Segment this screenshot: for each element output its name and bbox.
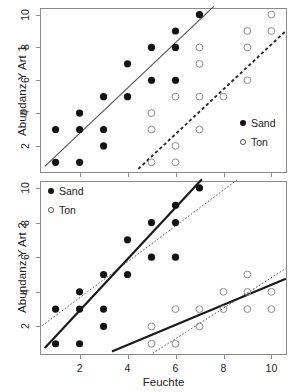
data-point-sand xyxy=(52,306,59,313)
x-axis-label: Feuchte xyxy=(124,376,204,388)
data-point-ton xyxy=(220,288,227,295)
data-point-ton xyxy=(148,323,155,330)
x-tick-mark xyxy=(176,173,177,177)
data-point-ton xyxy=(148,340,155,347)
data-point-sand xyxy=(172,219,179,226)
x-tick-label: 2 xyxy=(70,362,90,374)
x-tick-mark xyxy=(80,355,81,359)
y-tick-label: 2 xyxy=(19,137,31,155)
data-point-ton xyxy=(196,323,203,330)
x-tick-label: 10 xyxy=(261,362,281,374)
data-point-ton xyxy=(268,288,275,295)
figure-scatter-panels: Abundanz Y Art 1 Sand Ton Abundanz Y Art… xyxy=(0,0,292,392)
y-tick-label: 10 xyxy=(19,179,31,197)
x-tick-mark xyxy=(128,173,129,177)
y-tick-label: 10 xyxy=(19,6,31,24)
x-tick-mark xyxy=(128,355,129,359)
x-tick-mark xyxy=(224,355,225,359)
y-tick-mark xyxy=(36,80,40,81)
y-tick-mark xyxy=(36,257,40,258)
data-point-sand xyxy=(124,271,131,278)
data-point-sand xyxy=(76,306,83,313)
data-point-sand xyxy=(148,219,155,226)
y-tick-mark xyxy=(36,47,40,48)
y-tick-label: 6 xyxy=(19,248,31,266)
data-point-ton xyxy=(268,306,275,313)
legend-label-sand: Sand xyxy=(59,186,84,197)
data-point-sand xyxy=(124,236,131,243)
y-tick-mark xyxy=(36,292,40,293)
x-tick-mark xyxy=(176,355,177,359)
y-tick-mark xyxy=(36,146,40,147)
legend-label-ton: Ton xyxy=(59,205,76,216)
y-tick-mark xyxy=(36,113,40,114)
data-point-sand xyxy=(100,323,107,330)
data-point-sand xyxy=(100,306,107,313)
x-tick-mark xyxy=(271,173,272,177)
x-tick-label: 8 xyxy=(213,362,233,374)
data-point-sand xyxy=(76,340,83,347)
y-tick-label: 6 xyxy=(19,71,31,89)
data-point-sand xyxy=(172,202,179,209)
data-point-ton xyxy=(196,306,203,313)
open-circle-icon xyxy=(48,207,54,213)
plot-area-art2 xyxy=(0,0,292,392)
data-point-sand xyxy=(172,254,179,261)
data-point-sand xyxy=(100,271,107,278)
x-tick-mark xyxy=(271,355,272,359)
data-point-ton xyxy=(244,271,251,278)
y-tick-label: 4 xyxy=(19,104,31,122)
data-point-sand xyxy=(52,340,59,347)
x-tick-mark xyxy=(224,173,225,177)
y-tick-mark xyxy=(36,326,40,327)
data-point-ton xyxy=(172,306,179,313)
y-tick-mark xyxy=(36,223,40,224)
data-point-sand xyxy=(148,254,155,261)
y-tick-label: 8 xyxy=(19,38,31,56)
filled-circle-icon xyxy=(48,188,54,194)
data-point-sand xyxy=(196,184,203,191)
x-tick-label: 4 xyxy=(118,362,138,374)
x-tick-label: 6 xyxy=(165,362,185,374)
y-tick-label: 4 xyxy=(19,283,31,301)
y-tick-label: 2 xyxy=(19,317,31,335)
y-tick-mark xyxy=(36,15,40,16)
x-tick-mark xyxy=(80,173,81,177)
y-tick-label: 8 xyxy=(19,214,31,232)
data-point-sand xyxy=(76,288,83,295)
y-tick-mark xyxy=(36,188,40,189)
data-point-ton xyxy=(244,306,251,313)
data-point-ton xyxy=(172,340,179,347)
